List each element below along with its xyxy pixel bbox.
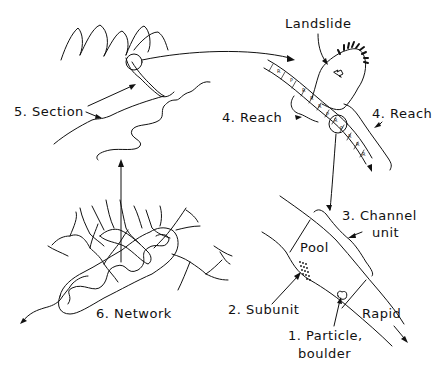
channel-unit-arrowhead-top: [326, 205, 332, 211]
rapid-label: Rapid: [362, 306, 401, 321]
section-panel: 5. Section: [14, 25, 295, 160]
reach-unit: P: [290, 77, 293, 83]
section-meandering-river: [97, 82, 210, 160]
reach-unit: R: [302, 87, 306, 93]
pool-label: Pool: [300, 240, 329, 255]
reach-unit: R: [277, 68, 281, 74]
particle-label-line1: 1. Particle,: [288, 328, 363, 343]
reach-unit: R: [318, 103, 322, 109]
network-main-stem: [22, 276, 88, 322]
landslide-outline: [312, 49, 366, 110]
reach-left-bracket: [291, 96, 318, 122]
network-reach-outline: [58, 228, 178, 314]
landslide-direction-arrow-icon: [334, 70, 343, 77]
section-label: 5. Section: [14, 104, 84, 119]
particle-label-arrow: [334, 300, 340, 326]
stream-hierarchy-diagram: 5. Section Landslide R P R R R P R P R R…: [0, 0, 444, 373]
landslide-scarp-hatch: [338, 42, 368, 63]
subunit-label: 2. Subunit: [228, 302, 299, 317]
section-label-arrow-1: [88, 86, 132, 106]
rapid-downstream-arrow: [394, 326, 404, 338]
reach-left-label: 4. Reach: [222, 110, 282, 125]
landslide-label: Landslide: [285, 16, 351, 31]
reach-left-arrowhead: [295, 115, 302, 120]
reach-downstream-arrowhead: [367, 164, 372, 172]
channel-unit-arrowhead: [348, 233, 356, 238]
channel-unit-panel: 3. Channel unit Pool 2. Subunit 1. Parti…: [228, 196, 417, 361]
section-long-arrowhead: [287, 55, 295, 62]
section-long-arrow-line: [142, 51, 290, 60]
network-panel: 6. Network: [20, 200, 232, 324]
channel-unit-label-line1: 3. Channel: [342, 208, 417, 223]
network-outlet-arrowhead: [20, 318, 27, 324]
boulder-icon: [337, 291, 346, 299]
subunit-gravel-stipple: [299, 261, 311, 281]
reach-right-arrowhead: [374, 122, 381, 128]
pool-rapid-divider: [342, 280, 366, 308]
reach-unit-dividers: [269, 64, 364, 157]
landslide-label-arrow: [318, 34, 326, 62]
mountain-ridges: [61, 25, 168, 60]
section-circle: [126, 54, 142, 70]
network-to-section-arrowhead: [118, 159, 124, 167]
reach-unit: R: [348, 133, 352, 139]
channel-unit-label-line2: unit: [372, 225, 399, 240]
reach-right-label: 4. Reach: [372, 106, 432, 121]
network-label: 6. Network: [96, 306, 172, 321]
rapid-downstream-arrowhead: [401, 336, 408, 343]
reach-panel: Landslide R P R R R P R P R R R 4. Reach…: [222, 16, 432, 210]
section-valley-stream: [126, 58, 174, 97]
particle-label-line2: boulder: [298, 346, 351, 361]
subunit-label-arrow: [272, 276, 298, 304]
reach-to-channel-unit-line: [330, 134, 336, 210]
section-label-arrowhead-1: [129, 84, 136, 90]
